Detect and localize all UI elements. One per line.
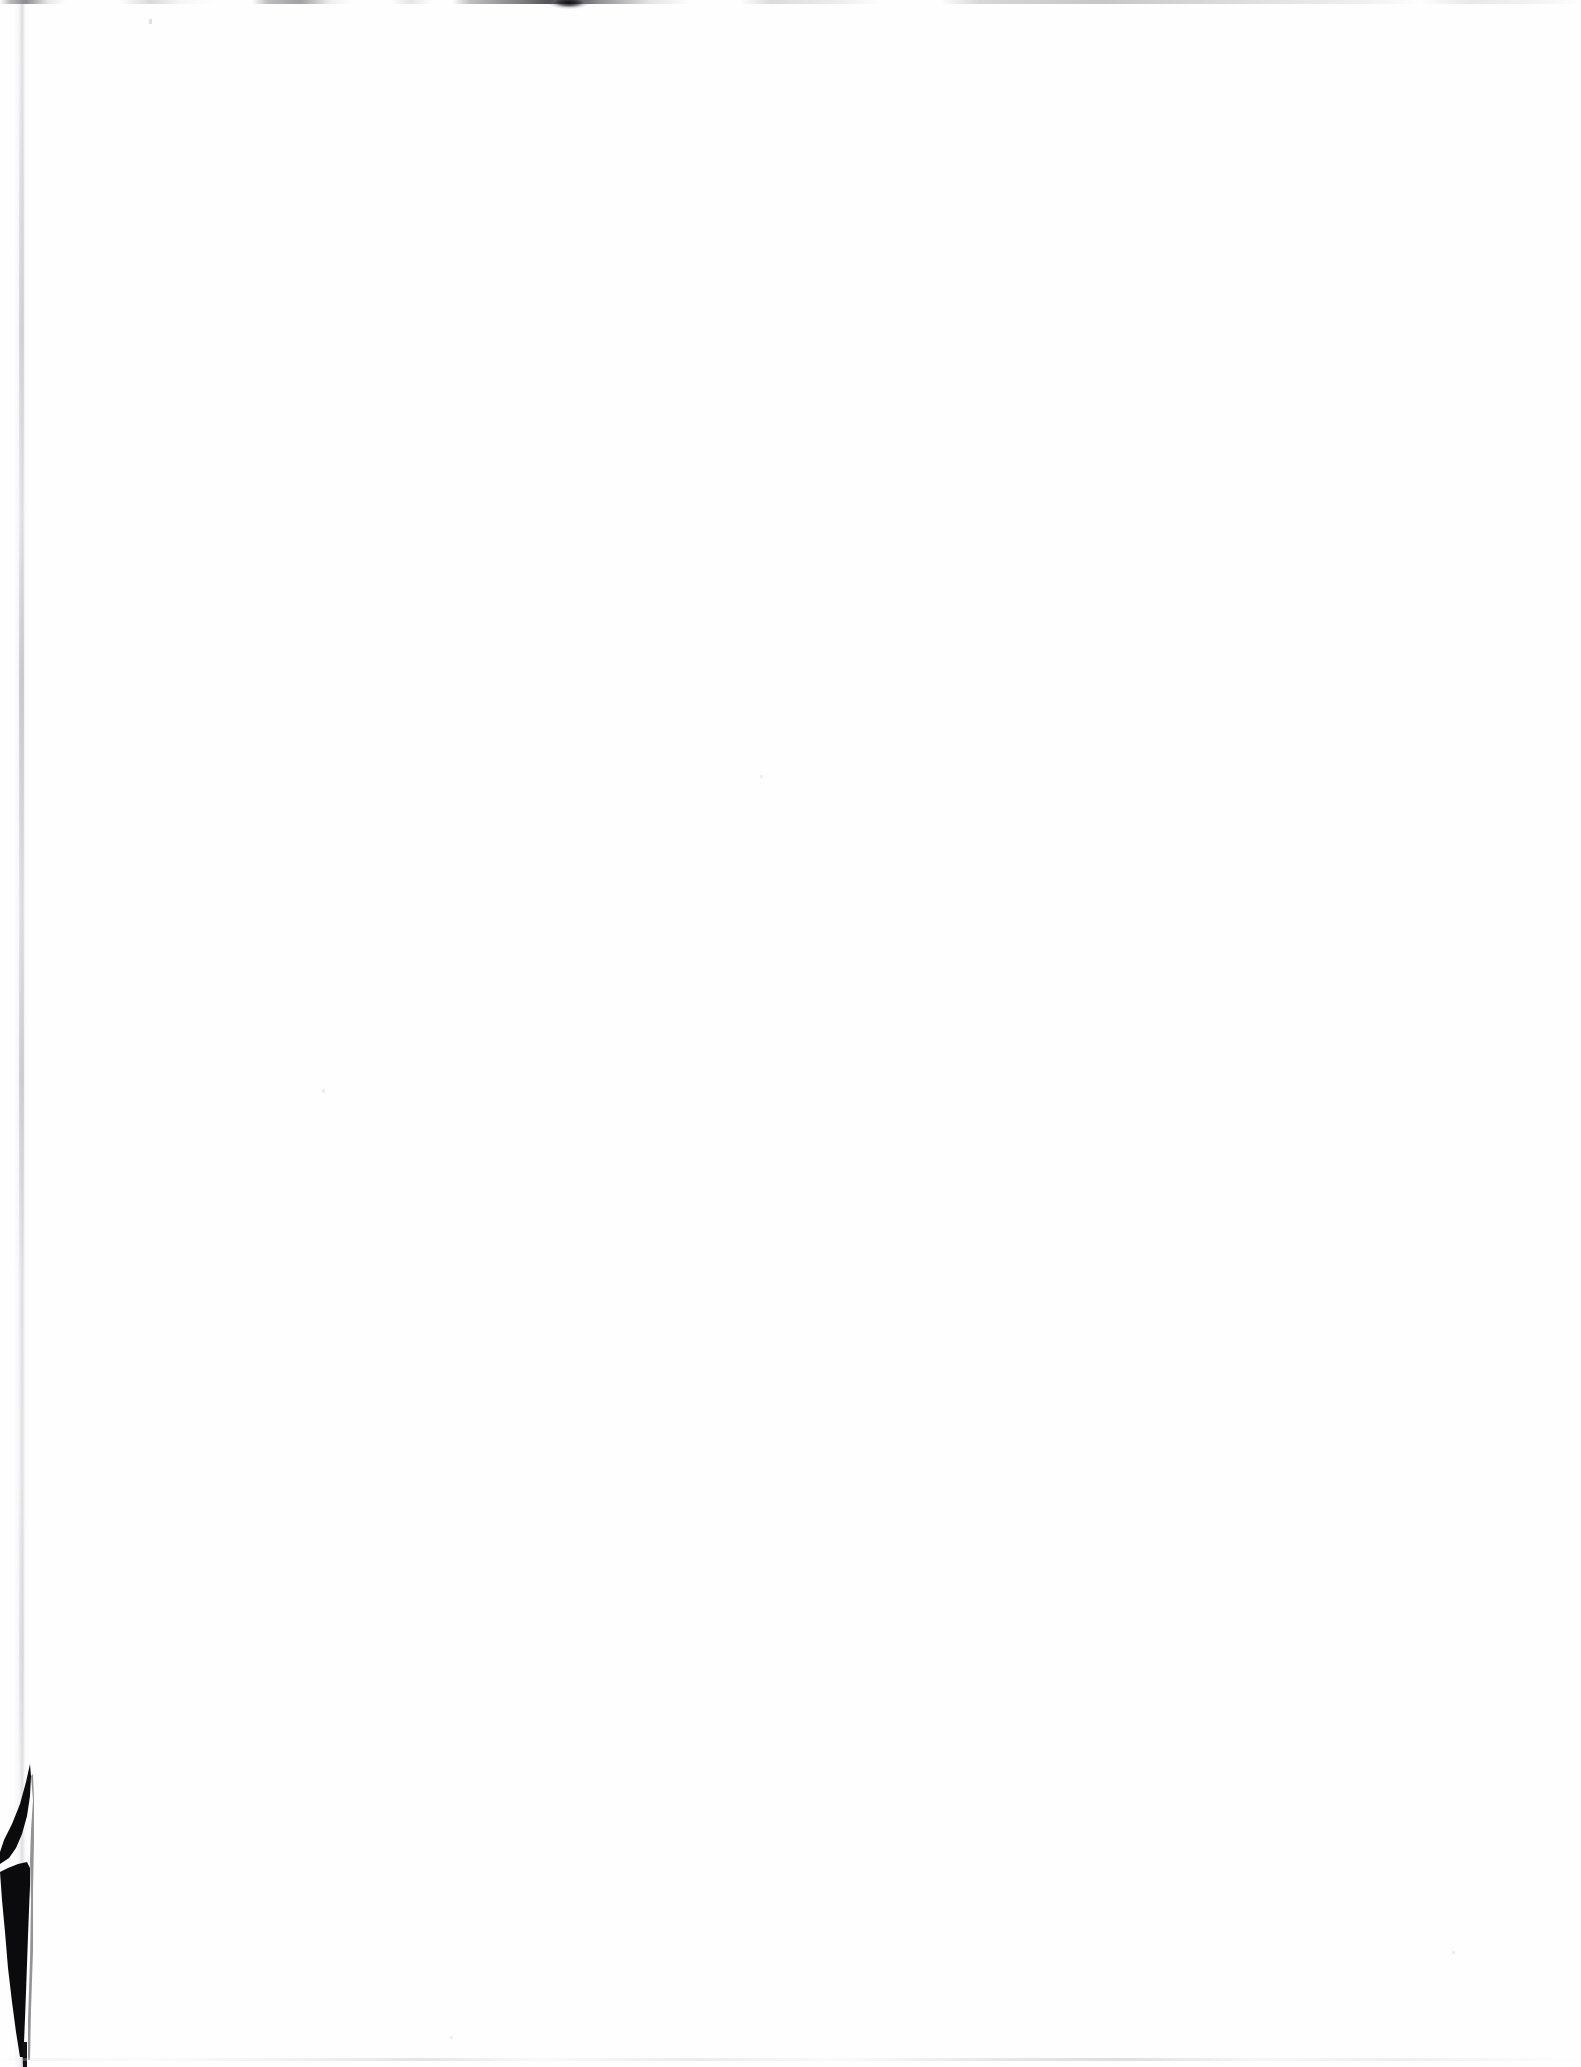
scanned-page [0,0,1581,2067]
page-content-area [150,160,1440,1900]
